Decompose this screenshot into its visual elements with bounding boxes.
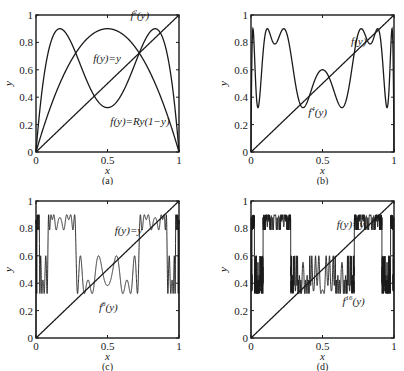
- series-logistic-8: [36, 215, 179, 338]
- chart-panel-a: 00.20.40.60.8100.51xy(a)f2(y)f(y)=yf(y)=…: [0, 0, 200, 189]
- y-tick-label: 0.6: [19, 250, 33, 262]
- x-tick-label: 0: [248, 154, 254, 166]
- chart-b: 00.20.40.60.8100.51xy(b)f(y)f4(y): [215, 0, 404, 185]
- y-tick-label: 0.8: [234, 36, 248, 48]
- y-tick-label: 0.2: [19, 305, 33, 317]
- curve-annotation: f(y)=y: [115, 224, 143, 237]
- y-tick-label: 0.8: [19, 222, 33, 234]
- y-tick-label: 0.4: [19, 91, 33, 103]
- series-identity-0: [251, 15, 394, 152]
- x-tick-label: 1: [391, 340, 397, 352]
- x-tick-label: 1: [176, 340, 182, 352]
- chart-panel-c: 00.20.40.60.8100.51xy(c)f(y)=yf8(y): [0, 177, 200, 371]
- panel-caption: (d): [317, 361, 329, 371]
- chart-panel-b: 00.20.40.60.8100.51xy(b)f(y)f4(y): [215, 0, 404, 189]
- y-tick-label: 0.8: [19, 36, 33, 48]
- y-tick-label: 0.4: [19, 277, 33, 289]
- x-tick-label: 1: [176, 154, 182, 166]
- series-identity-0: [36, 15, 179, 152]
- y-tick-label: 1: [28, 195, 34, 207]
- y-tick-label: 1: [28, 9, 34, 21]
- chart-panel-d: 00.20.40.60.8100.51xy(d)f(y)=yf16(y): [215, 177, 404, 371]
- curve-annotation: f8(y): [99, 300, 118, 314]
- curve-annotation: f16(y): [343, 294, 366, 308]
- curve-annotation: f2(y): [130, 8, 149, 22]
- series-logistic-1: [36, 29, 179, 152]
- series-logistic-16: [251, 215, 394, 338]
- curve-annotation: f(y)=y: [93, 52, 121, 65]
- y-tick-label: 0.2: [19, 119, 33, 131]
- y-tick-label: 0.2: [234, 305, 248, 317]
- y-tick-label: 1: [243, 195, 249, 207]
- curve-annotation: f(y)=Ry(1−y): [110, 115, 170, 128]
- chart-a: 00.20.40.60.8100.51xy(a)f2(y)f(y)=yf(y)=…: [0, 0, 200, 185]
- y-tick-label: 0.6: [234, 250, 248, 262]
- y-axis-label: y: [217, 81, 229, 87]
- y-tick-label: 0.4: [234, 91, 248, 103]
- y-tick-label: 0.6: [234, 64, 248, 76]
- chart-d: 00.20.40.60.8100.51xy(d)f(y)=yf16(y): [215, 177, 404, 371]
- y-axis-label: y: [2, 81, 14, 87]
- chart-c: 00.20.40.60.8100.51xy(c)f(y)=yf8(y): [0, 177, 200, 371]
- series-logistic-4: [251, 29, 394, 152]
- curve-annotation: f(y)=y: [337, 218, 365, 231]
- x-tick-label: 0: [248, 340, 254, 352]
- curve-annotation: f(y): [351, 35, 367, 48]
- x-tick-label: 0: [33, 340, 39, 352]
- y-tick-label: 1: [243, 9, 249, 21]
- x-tick-label: 1: [391, 154, 397, 166]
- y-tick-label: 0.8: [234, 222, 248, 234]
- curve-annotation: f4(y): [308, 105, 327, 119]
- y-axis-label: y: [2, 267, 14, 273]
- panel-caption: (c): [102, 361, 113, 371]
- y-tick-label: 0.6: [19, 64, 33, 76]
- y-axis-label: y: [217, 267, 229, 273]
- y-tick-label: 0.2: [234, 119, 248, 131]
- series-identity-0: [36, 201, 179, 338]
- x-tick-label: 0: [33, 154, 39, 166]
- y-tick-label: 0.4: [234, 277, 248, 289]
